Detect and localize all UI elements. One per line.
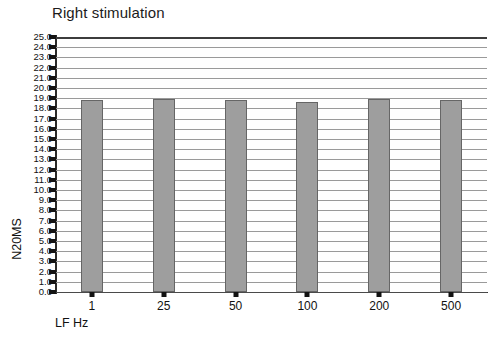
y-axis-tick-label: 13.0 [0, 155, 52, 165]
x-axis-tick-mark [449, 292, 454, 297]
chart-title: Right stimulation [52, 4, 165, 21]
y-axis-tick-label: 9.0 [0, 195, 52, 205]
y-axis-tick-mark [49, 178, 56, 182]
y-axis-tick-mark [49, 127, 56, 131]
y-axis-tick-label: 18.0 [0, 104, 52, 114]
y-axis-tick-mark [49, 35, 56, 39]
bar-series [56, 37, 487, 292]
y-axis-tick-label: 23.0 [0, 53, 52, 63]
x-axis-tick-mark [233, 292, 238, 297]
y-axis-tick-label: 19.0 [0, 93, 52, 103]
y-axis-tick-label: 11.0 [0, 175, 52, 185]
y-axis-tick-label: 21.0 [0, 73, 52, 83]
x-axis-tick-mark [89, 292, 94, 297]
y-axis-tick-mark [49, 86, 56, 90]
y-axis-tick-mark [49, 219, 56, 223]
y-axis-tick-mark [49, 259, 56, 263]
y-axis-tick-label: 20.0 [0, 83, 52, 93]
y-axis-tick-mark [49, 188, 56, 192]
bar [296, 102, 318, 292]
x-axis-tick-mark [377, 292, 382, 297]
y-axis-tick-label: 15.0 [0, 134, 52, 144]
x-axis-title: LF Hz [55, 316, 88, 330]
y-axis-tick-label: 5.0 [0, 236, 52, 246]
y-axis-tick-label: 3.0 [0, 257, 52, 267]
y-axis-tick-label: 4.0 [0, 246, 52, 256]
y-axis-tick-mark [49, 137, 56, 141]
y-axis-tick-label: 2.0 [0, 267, 52, 277]
x-axis-tick-labels: 12550100200500 [56, 292, 487, 332]
y-axis-tick-labels: 25.024.023.022.021.020.019.018.017.016.0… [0, 37, 52, 292]
y-axis-tick-mark [49, 55, 56, 59]
y-axis-tick-mark [49, 147, 56, 151]
y-axis-tick-mark [49, 96, 56, 100]
x-axis-tick-label: 50 [229, 300, 242, 313]
y-axis-tick-label: 14.0 [0, 144, 52, 154]
bar [81, 100, 103, 292]
y-axis-tick-mark [49, 157, 56, 161]
y-axis-tick-mark [49, 117, 56, 121]
y-axis-tick-label: 24.0 [0, 42, 52, 52]
y-axis-title: N20MS [10, 204, 24, 274]
y-axis-tick-label: 7.0 [0, 216, 52, 226]
y-axis-tick-label: 10.0 [0, 185, 52, 195]
y-axis-tick-mark [49, 270, 56, 274]
y-axis-tick-mark [49, 280, 56, 284]
y-axis-tick-mark [49, 66, 56, 70]
x-axis-tick-label: 200 [369, 300, 389, 313]
y-axis-tick-mark [49, 45, 56, 49]
bar [225, 100, 247, 292]
bar [368, 99, 390, 292]
y-axis-tick-mark [49, 229, 56, 233]
y-axis-tick-label: 8.0 [0, 206, 52, 216]
y-axis-tick-label: 16.0 [0, 124, 52, 134]
y-axis-tick-mark [49, 76, 56, 80]
y-axis-tick-mark [49, 239, 56, 243]
y-axis-tick-label: 17.0 [0, 114, 52, 124]
y-axis-tick-label: 6.0 [0, 226, 52, 236]
x-axis-tick-label: 100 [297, 300, 317, 313]
bar [153, 99, 175, 292]
y-axis-tick-label: 22.0 [0, 63, 52, 73]
y-axis-tick-mark [49, 168, 56, 172]
y-axis-tick-label: 25.0 [0, 32, 52, 42]
x-axis-tick-mark [305, 292, 310, 297]
bar [440, 100, 462, 292]
x-axis-tick-label: 500 [441, 300, 461, 313]
x-axis-tick-label: 1 [89, 300, 96, 313]
y-axis-tick-label: 12.0 [0, 165, 52, 175]
plot-area [56, 37, 487, 292]
y-axis-tick-mark [49, 106, 56, 110]
x-axis-tick-mark [161, 292, 166, 297]
x-axis-tick-label: 25 [157, 300, 170, 313]
y-axis-tick-mark [49, 290, 56, 294]
y-axis-tick-mark [49, 208, 56, 212]
y-axis-tick-label: 1.0 [0, 277, 52, 287]
y-axis-tick-label: 0.0 [0, 287, 52, 297]
chart-figure: Right stimulation 25.024.023.022.021.020… [0, 0, 501, 345]
y-axis-tick-mark [49, 249, 56, 253]
y-axis-tick-mark [49, 198, 56, 202]
